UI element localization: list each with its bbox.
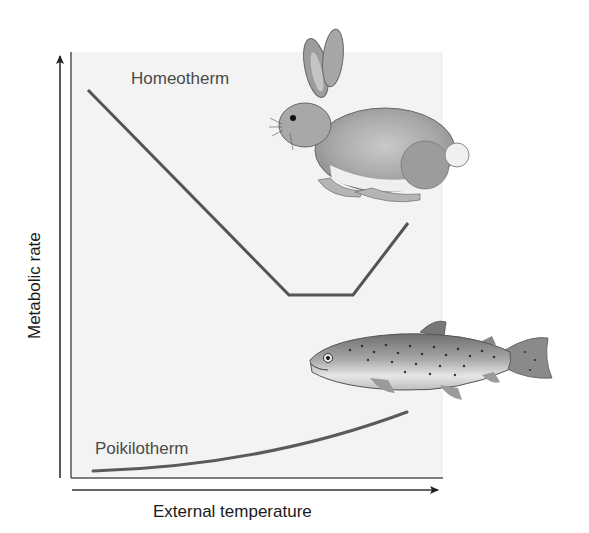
- x-axis-label: External temperature: [153, 502, 312, 522]
- poikilotherm-label: Poikilotherm: [95, 439, 189, 459]
- homeotherm-label: Homeotherm: [131, 69, 229, 89]
- y-axis-label: Metabolic rate: [25, 232, 45, 339]
- metabolic-rate-diagram: [0, 0, 589, 533]
